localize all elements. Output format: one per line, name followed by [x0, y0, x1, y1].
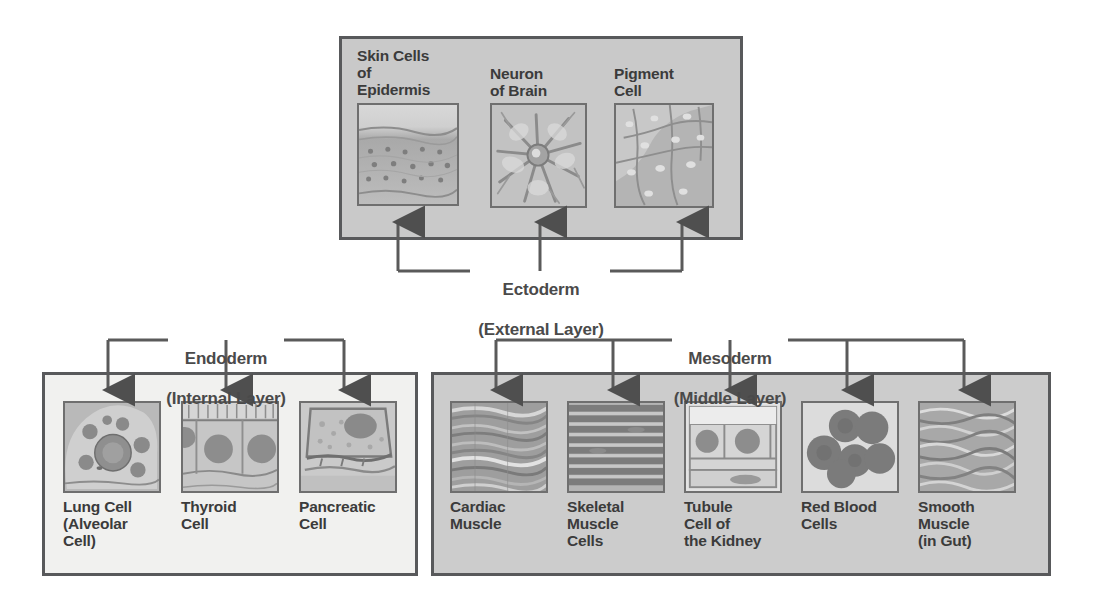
cell-label-skin: Skin Cells of Epidermis [357, 47, 430, 98]
mesoderm-label-name: Mesoderm [670, 349, 790, 369]
cell-label-pancreatic: Pancreatic Cell [299, 498, 397, 532]
cell-label-smooth: Smooth Muscle (in Gut) [918, 498, 1016, 549]
endoderm-label-sub: (Internal Layer) [166, 389, 286, 409]
cell-card-lung: Lung Cell (Alveolar Cell) [63, 401, 161, 549]
cell-card-pigment: Pigment Cell [614, 65, 714, 208]
skeletal-muscle-micrograph [567, 401, 665, 493]
cell-label-cardiac: Cardiac Muscle [450, 498, 548, 532]
ectoderm-label: Ectoderm (External Layer) [468, 260, 614, 360]
cell-label-thyroid: Thyroid Cell [181, 498, 279, 532]
cardiac-muscle-micrograph [450, 401, 548, 493]
endoderm-label: Endoderm (Internal Layer) [166, 329, 286, 429]
red-blood-cells-micrograph [801, 401, 899, 493]
cell-card-skeletal: Skeletal Muscle Cells [567, 401, 665, 549]
cell-label-pigment: Pigment Cell [614, 65, 674, 99]
ectoderm-label-sub: (External Layer) [468, 320, 614, 340]
smooth-muscle-micrograph [918, 401, 1016, 493]
ectoderm-label-name: Ectoderm [468, 280, 614, 300]
lung-alveolar-cell-micrograph [63, 401, 161, 493]
cell-label-lung: Lung Cell (Alveolar Cell) [63, 498, 161, 549]
skin-epidermis-micrograph [357, 103, 459, 206]
cell-card-pancreatic: Pancreatic Cell [299, 401, 397, 532]
cell-card-skin: Skin Cells of Epidermis [357, 47, 459, 206]
cell-label-neuron: Neuron of Brain [490, 65, 547, 99]
cell-card-neuron: Neuron of Brain [490, 65, 587, 208]
cell-label-rbc: Red Blood Cells [801, 498, 899, 532]
cell-card-smooth: Smooth Muscle (in Gut) [918, 401, 1016, 549]
cell-card-rbc: Red Blood Cells [801, 401, 899, 532]
cell-label-skeletal: Skeletal Muscle Cells [567, 498, 665, 549]
cell-card-cardiac: Cardiac Muscle [450, 401, 548, 532]
neuron-micrograph [490, 103, 587, 208]
cell-label-tubule: Tubule Cell of the Kidney [684, 498, 782, 549]
mesoderm-label-sub: (Middle Layer) [670, 389, 790, 409]
endoderm-label-name: Endoderm [166, 349, 286, 369]
germ-layer-diagram: Skin Cells of Epidermis [0, 0, 1093, 612]
pigment-cell-micrograph [614, 103, 714, 208]
ectoderm-panel: Skin Cells of Epidermis [339, 36, 743, 240]
mesoderm-label: Mesoderm (Middle Layer) [670, 329, 790, 429]
pancreatic-cell-micrograph [299, 401, 397, 493]
